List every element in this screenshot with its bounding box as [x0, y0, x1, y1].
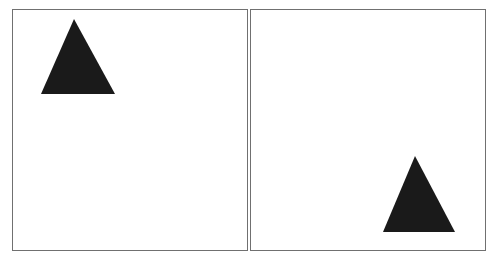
triangles-layer	[0, 0, 497, 260]
triangle-icon-left	[41, 19, 115, 94]
triangle-icon-right	[383, 156, 455, 232]
